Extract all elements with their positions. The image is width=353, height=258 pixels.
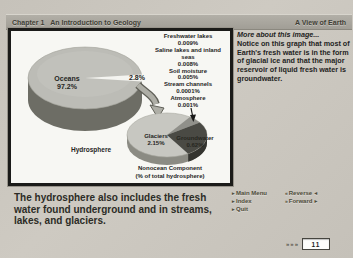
nav-menu-right: «Reverse◄ »Forward► — [284, 190, 319, 206]
oceans-value: 97.2% — [54, 83, 79, 91]
double-right-arrow-icon: » — [285, 198, 288, 204]
list-item: Saline lakes and inland seas 0.008% — [150, 47, 226, 68]
freshwater-components-list: Freshwater lakes 0.009% Saline lakes and… — [150, 33, 226, 109]
page-arrows-icon: »»» — [286, 241, 299, 247]
nav-forward[interactable]: »Forward► — [284, 198, 319, 206]
right-arrow-icon: ► — [313, 198, 318, 204]
oceans-pie — [28, 47, 142, 131]
nav-reverse[interactable]: «Reverse◄ — [284, 190, 319, 198]
slide-background: Chapter 1An Introduction to Geology A Vi… — [0, 0, 353, 258]
bold-word: glaciers — [65, 215, 103, 226]
nonocean-caption: Nonocean Component (% of total hydrosphe… — [115, 165, 225, 180]
chapter-title: An Introduction to Geology — [50, 19, 141, 26]
nav-main-menu[interactable]: ▸Main Menu — [231, 190, 267, 198]
header-right-title: A View of Earth — [295, 19, 346, 26]
page-indicator: »»» 11 — [286, 238, 330, 250]
list-item: Atmosphere 0.001% — [150, 95, 226, 109]
nav-index[interactable]: ▸Index — [231, 198, 267, 206]
bullet-arrow-icon: ▸ — [232, 206, 235, 212]
about-image-body: Notice on this graph that most of Earth'… — [237, 40, 351, 84]
slide-caption: The hydrosphere also includes the fresh … — [14, 192, 228, 227]
chapter-label: Chapter 1 — [12, 19, 44, 26]
bullet-arrow-icon: ▸ — [232, 190, 235, 196]
oceans-label: Oceans 97.2% — [54, 75, 79, 91]
list-item: Soil moisture 0.005% — [150, 68, 226, 82]
oceans-name: Oceans — [54, 75, 79, 83]
double-left-arrow-icon: « — [285, 190, 288, 196]
nonocean-percent-label: 2.8% — [129, 74, 145, 81]
hydrosphere-label: Hydrosphere — [71, 146, 111, 153]
left-arrow-icon: ◄ — [313, 190, 318, 196]
chart-panel: Oceans 97.2% 2.8% Freshwater lakes 0.009… — [8, 28, 233, 186]
bullet-arrow-icon: ▸ — [232, 198, 235, 204]
groundwater-label: Groundwater 0.62% — [176, 135, 213, 149]
glaciers-label: Glaciers 2.15% — [144, 133, 168, 147]
nav-menu-left: ▸Main Menu ▸Index ▸Quit — [231, 190, 267, 214]
header-left-title: Chapter 1An Introduction to Geology — [12, 19, 147, 26]
list-item: Stream channels 0.0001% — [150, 81, 226, 95]
about-image-panel: More about this image... Notice on this … — [237, 30, 351, 84]
list-item: Freshwater lakes 0.009% — [150, 33, 226, 47]
nav-quit[interactable]: ▸Quit — [231, 206, 267, 214]
page-number-box: 11 — [302, 238, 330, 250]
about-image-heading: More about this image... — [237, 30, 351, 39]
